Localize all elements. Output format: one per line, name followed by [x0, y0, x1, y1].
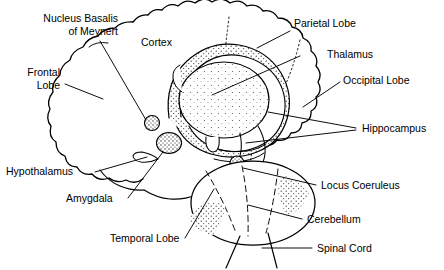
label-temporal-lobe: Temporal Lobe	[110, 232, 179, 245]
label-hypothalamus: Hypothalamus	[6, 165, 73, 178]
label-parietal-lobe: Parietal Lobe	[294, 17, 356, 30]
label-nucleus-basalis: Nucleus Basalis of Meynert	[6, 12, 118, 37]
nucleus-basalis-structure	[145, 116, 160, 131]
label-cerebellum: Cerebellum	[307, 213, 361, 226]
label-hippocampus: Hippocampus	[362, 122, 426, 135]
label-thalamus: Thalamus	[327, 48, 373, 61]
label-frontal-lobe: Frontal Lobe	[4, 66, 60, 91]
label-cortex: Cortex	[141, 36, 172, 49]
label-locus-coeruleus: Locus Coeruleus	[321, 179, 400, 192]
label-occipital-lobe: Occipital Lobe	[343, 74, 410, 87]
amygdala-structure	[157, 133, 182, 154]
brain-illustration	[0, 0, 444, 270]
label-spinal-cord: Spinal Cord	[317, 242, 372, 255]
cerebellum	[189, 161, 315, 245]
thalamus	[179, 62, 269, 138]
brain-diagram: Nucleus Basalis of Meynert Cortex Fronta…	[0, 0, 444, 270]
label-amygdala: Amygdala	[66, 192, 113, 205]
